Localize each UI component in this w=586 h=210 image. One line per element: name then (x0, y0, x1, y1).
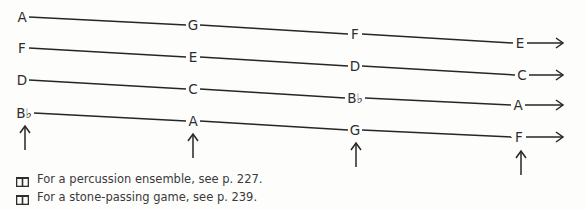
connector-line (362, 66, 515, 75)
note-label: A (188, 113, 198, 129)
footnote-text: For a percussion ensemble, see p. 227. (37, 170, 262, 188)
note-label: F (18, 40, 26, 56)
note-row-4: B♭AGF (16, 105, 563, 145)
note-label: C (188, 81, 197, 97)
connector-line (29, 48, 186, 57)
note-rows: AGFEFEDCDCB♭AB♭AGF (16, 9, 563, 145)
connector-line (29, 17, 186, 25)
connector-line (34, 113, 186, 121)
note-row-2: FEDC (18, 40, 563, 83)
footnote-text: For a stone-passing game, see p. 239. (37, 188, 257, 206)
book-icon (16, 174, 29, 184)
note-label: A (17, 9, 27, 25)
footnotes: For a percussion ensemble, see p. 227. F… (16, 170, 262, 206)
connector-line (365, 98, 511, 105)
book-icon (16, 192, 29, 202)
note-label: A (513, 97, 523, 113)
connector-line (362, 34, 513, 43)
connector-line (362, 130, 512, 137)
note-label: C (517, 67, 526, 83)
note-label: B♭ (347, 90, 363, 106)
footnote-percussion: For a percussion ensemble, see p. 227. (16, 170, 262, 188)
note-label: D (350, 58, 360, 74)
note-label: E (189, 49, 198, 65)
footnote-stone-passing: For a stone-passing game, see p. 239. (16, 188, 262, 206)
note-label: E (516, 35, 525, 51)
connector-line (200, 57, 348, 66)
connector-line (200, 121, 348, 130)
note-label: B♭ (16, 105, 32, 121)
note-label: G (188, 17, 198, 33)
note-label: G (350, 122, 360, 138)
note-label: F (515, 129, 523, 145)
note-label: F (351, 26, 359, 42)
connector-line (29, 80, 186, 89)
connector-line (200, 89, 345, 98)
note-row-1: AGFE (17, 9, 563, 51)
note-label: D (17, 72, 27, 88)
note-row-3: DCB♭A (17, 72, 563, 113)
up-arrows (20, 126, 526, 175)
connector-line (200, 25, 348, 34)
